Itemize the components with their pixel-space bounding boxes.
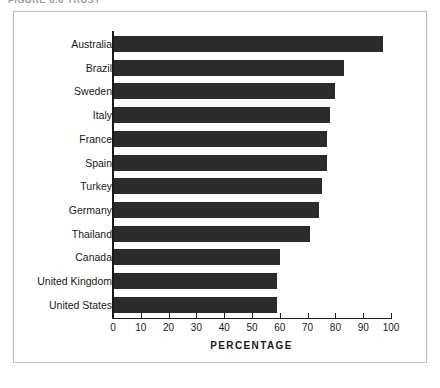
bar-row: Brazil — [14, 58, 428, 78]
bar-rect — [113, 83, 335, 99]
chart-plot-area: AustraliaBrazilSwedenItalyFranceSpainTur… — [14, 12, 428, 364]
bar-rect — [113, 60, 344, 76]
bar-row: Spain — [14, 153, 428, 173]
x-axis-tick — [224, 313, 225, 319]
bar-row: Thailand — [14, 224, 428, 244]
bar-rect — [113, 107, 330, 123]
x-axis-tick-label: 20 — [154, 322, 184, 333]
bar-row: Australia — [14, 34, 428, 54]
figure-frame: AustraliaBrazilSwedenItalyFranceSpainTur… — [13, 11, 427, 363]
bar-row: France — [14, 129, 428, 149]
bar-rect — [113, 178, 322, 194]
bar-rect — [113, 297, 277, 313]
x-axis-tick — [169, 313, 170, 319]
bar-row: Italy — [14, 105, 428, 125]
x-axis-tick — [363, 313, 364, 319]
x-axis-tick-label: 70 — [293, 322, 323, 333]
bar-category-label: Turkey — [80, 176, 112, 196]
bar-category-label: Canada — [75, 247, 112, 267]
bar-category-label: Spain — [85, 153, 112, 173]
bar-rect — [113, 131, 327, 147]
x-axis-tick — [141, 313, 142, 319]
bar-rect — [113, 249, 280, 265]
x-axis-tick — [113, 313, 114, 319]
bar-row: Sweden — [14, 81, 428, 101]
bar-category-label: Thailand — [72, 224, 112, 244]
bar-rect — [113, 155, 327, 171]
x-axis-tick-label: 80 — [320, 322, 350, 333]
x-axis-tick-label: 30 — [181, 322, 211, 333]
bar-category-label: United Kingdom — [37, 271, 112, 291]
bar-rect — [113, 36, 383, 52]
bar-row: Canada — [14, 247, 428, 267]
bar-row: Germany — [14, 200, 428, 220]
x-axis-tick-label: 40 — [209, 322, 239, 333]
bar-category-label: Sweden — [74, 81, 112, 101]
x-axis-tick-label: 90 — [348, 322, 378, 333]
bar-row: United Kingdom — [14, 271, 428, 291]
x-axis-tick — [280, 313, 281, 319]
x-axis-tick — [335, 313, 336, 319]
bar-category-label: Brazil — [86, 58, 112, 78]
bar-rect — [113, 273, 277, 289]
x-axis-tick-label: 50 — [237, 322, 267, 333]
y-axis-line — [112, 31, 114, 319]
x-axis-tick-label: 100 — [376, 322, 406, 333]
x-axis-tick — [252, 313, 253, 319]
x-axis-tick-label: 60 — [265, 322, 295, 333]
bar-rect — [113, 202, 319, 218]
x-axis-tick — [196, 313, 197, 319]
bar-category-label: Italy — [93, 105, 112, 125]
bar-category-label: United States — [49, 295, 112, 315]
figure-caption-strip: FIGURE 8.8 TRUST — [0, 0, 440, 9]
bar-row: Turkey — [14, 176, 428, 196]
bar-row: United States — [14, 295, 428, 315]
x-axis-title: PERCENTAGE — [112, 340, 391, 351]
x-axis-tick-label: 0 — [98, 322, 128, 333]
bar-rect — [113, 226, 310, 242]
x-axis-tick — [308, 313, 309, 319]
x-axis-tick — [391, 313, 392, 319]
figure-caption-text: FIGURE 8.8 TRUST — [8, 0, 101, 5]
x-axis-tick-label: 10 — [126, 322, 156, 333]
bar-category-label: France — [79, 129, 112, 149]
bar-category-label: Australia — [71, 34, 112, 54]
bar-category-label: Germany — [69, 200, 112, 220]
